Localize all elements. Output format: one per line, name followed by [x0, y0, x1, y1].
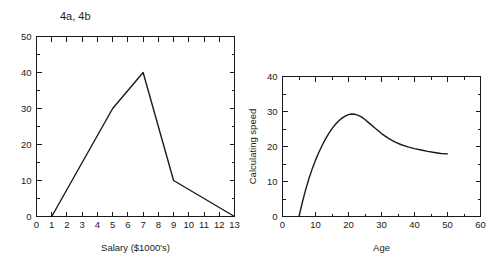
figure-svg: 01234567891011121301020304050Salary ($10… [0, 0, 495, 265]
chart-4a: 01234567891011121301020304050Salary ($10… [21, 31, 240, 253]
chart-4b-xtick-label: 30 [376, 219, 387, 230]
chart-4b: 0102030405060010203040AgeCalculating spe… [247, 71, 486, 253]
chart-4a-xtick-label: 10 [184, 219, 195, 230]
chart-4a-ytick-label: 20 [21, 139, 32, 150]
figure-title: 4a, 4b [60, 10, 91, 22]
figure-container: 01234567891011121301020304050Salary ($10… [0, 0, 495, 265]
chart-4b-xtick-label: 20 [343, 219, 354, 230]
chart-4b-ytick-label: 40 [267, 71, 278, 82]
chart-4b-xaxis-title: Age [373, 242, 390, 253]
chart-4a-xtick-label: 7 [140, 219, 145, 230]
chart-4a-xtick-label: 3 [80, 219, 85, 230]
chart-4b-yaxis-title: Calculating speed [247, 109, 258, 185]
chart-4b-ytick-label: 0 [272, 211, 277, 222]
chart-4a-xtick-label: 9 [171, 219, 176, 230]
chart-4a-xaxis-title: Salary ($1000's) [101, 242, 170, 253]
chart-4a-xtick-label: 5 [110, 219, 115, 230]
chart-4a-xtick-label: 11 [199, 219, 209, 230]
chart-4a-ytick-label: 30 [21, 103, 32, 114]
chart-4b-xtick-label: 50 [442, 219, 453, 230]
chart-4a-data-line [52, 73, 235, 217]
chart-4b-data-line [299, 114, 448, 217]
chart-4b-ytick-label: 20 [267, 141, 278, 152]
chart-4a-xtick-label: 0 [34, 219, 39, 230]
chart-4a-xtick-label: 4 [95, 219, 100, 230]
chart-4b-xtick-label: 10 [310, 219, 321, 230]
chart-4a-ytick-label: 50 [21, 31, 32, 42]
chart-4a-xtick-label: 2 [64, 219, 69, 230]
chart-4b-xtick-label: 40 [409, 219, 420, 230]
chart-4b-ytick-label: 10 [267, 176, 278, 187]
chart-4b-xtick-label: 60 [475, 219, 486, 230]
chart-4b-plot-frame [283, 77, 481, 217]
chart-4b-xtick-label: 0 [280, 219, 285, 230]
chart-4a-ytick-label: 10 [21, 175, 32, 186]
chart-4a-xtick-label: 13 [229, 219, 240, 230]
chart-4a-xtick-label: 6 [125, 219, 130, 230]
chart-4a-ytick-label: 0 [26, 211, 31, 222]
chart-4a-xtick-label: 1 [49, 219, 54, 230]
chart-4a-ytick-label: 40 [21, 67, 32, 78]
chart-4a-xtick-label: 12 [214, 219, 225, 230]
chart-4b-ytick-label: 30 [267, 106, 278, 117]
chart-4a-xtick-label: 8 [156, 219, 161, 230]
